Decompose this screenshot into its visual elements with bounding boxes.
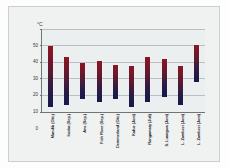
y-axis-tickmark [40,95,42,96]
gridline [42,29,205,30]
x-axis-category-label: L. Zambezi (Juni) [181,114,186,156]
range-bar [64,57,69,105]
y-axis-tickmark [40,29,42,30]
y-axis-tick-label: 10 [33,109,38,114]
y-axis-tick-label: 40 [33,59,38,64]
chart-canvas: °C 01020304050 Mandib (Okt.)Itoska (Sep.… [23,13,211,157]
range-bar [113,65,118,99]
y-axis-tick-label: 30 [33,76,38,81]
range-bar [178,66,183,106]
x-axis-category-label: Itoska (Sep.) [67,114,72,156]
x-axis-category-label: L. Zambezi (Juni) [197,114,202,156]
x-axis-category-label: S. Luangwa (Juni) [165,114,170,156]
plot-area [41,29,205,113]
chart-frame: °C 01020304050 Mandib (Okt.)Itoska (Sep.… [8,6,220,162]
x-axis-category-label: Fish River (Sep.) [100,114,105,156]
y-axis-tickmark [40,78,42,79]
chart-figure: °C 01020304050 Mandib (Okt.)Itoska (Sep.… [0,0,228,168]
range-bar [194,45,199,82]
range-bar [48,46,53,107]
x-axis-category-labels: Mandib (Okt.)Itoska (Sep.)Ans (Sep.)Fish… [41,114,205,157]
range-bar [162,59,167,97]
x-axis-category-label: Kafue (Juni) [132,114,137,156]
range-bar [145,57,150,102]
y-axis-tickmark [40,112,42,113]
y-axis-tick-label: 50 [33,43,38,48]
y-axis-tick-labels: 01020304050 [23,29,38,113]
range-bar [80,63,85,99]
gridline [42,112,205,113]
x-axis-category-label: Demmerland (Okt.) [116,114,121,156]
range-bar [97,61,102,102]
y-axis-tick-label: 20 [33,92,38,97]
x-axis-category-label: Mandib (Okt.) [51,114,56,156]
range-bar [129,66,134,107]
y-axis-unit-label: °C [37,21,43,27]
y-axis-tick-label: 0 [35,126,38,131]
y-axis-tickmark [40,62,42,63]
x-axis-category-label: Ans (Sep.) [83,114,88,156]
x-axis-category-label: Rangamaty (Juli) [148,114,153,156]
gridline [42,45,205,46]
y-axis-tickmark [40,45,42,46]
